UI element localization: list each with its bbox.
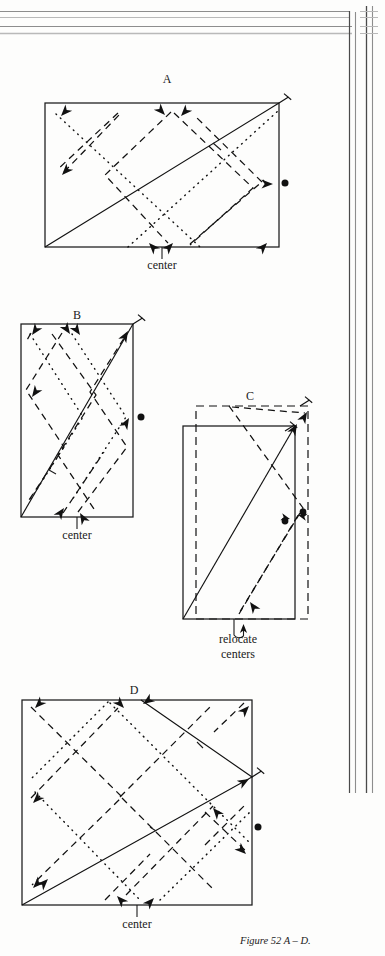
- panel-d-dotted-lines: [30, 702, 250, 900]
- panel-b-letter: B: [73, 308, 81, 322]
- panel-d-bounce-path: [22, 700, 252, 905]
- panel-c-dot-marker-b: [300, 509, 307, 516]
- panel-d-center-label: center: [122, 917, 151, 931]
- panel-b-diagonal: [21, 324, 133, 517]
- panel-a: A: [45, 72, 291, 272]
- panel-b: B: [21, 308, 145, 542]
- panel-c-dot-marker-a: [282, 518, 289, 525]
- panel-d-arrowheads: [30, 694, 253, 910]
- panel-b-center-label: center: [62, 528, 91, 542]
- panel-a-letter: A: [163, 72, 172, 86]
- panel-d-letter: D: [130, 683, 139, 697]
- panel-c-dashed-paths: [229, 406, 305, 615]
- panel-c-relocate-label-line1: relocate: [219, 632, 257, 646]
- figure-caption: Figure 52 A – D.: [239, 935, 311, 946]
- panel-a-center-label: center: [147, 258, 176, 272]
- panel-b-arrowheads: [28, 322, 133, 525]
- panel-d-dot-marker: [255, 824, 262, 831]
- panel-a-dotted-lines: [56, 110, 279, 247]
- scanned-page: A: [0, 0, 385, 956]
- panel-d-rectangle: [22, 700, 252, 905]
- panel-c-diagonal: [183, 426, 295, 619]
- scan-edge-artifacts: [0, 6, 378, 793]
- panel-b-dot-marker: [138, 414, 145, 421]
- panel-a-diagonal: [45, 103, 279, 247]
- panel-c-relocate-label-line2: centers: [221, 647, 255, 661]
- panel-a-pin-icon: [279, 94, 291, 103]
- panel-c: C: [183, 389, 312, 661]
- panel-a-dot-marker: [282, 180, 289, 187]
- figure-52-diagram: A: [0, 0, 385, 956]
- panel-d-pin-icon: [252, 768, 264, 777]
- panel-c-pin-icon-b: [300, 397, 312, 406]
- panel-c-letter: C: [246, 389, 254, 403]
- panel-b-pin-icon: [133, 315, 145, 324]
- panel-d: D: [22, 683, 264, 931]
